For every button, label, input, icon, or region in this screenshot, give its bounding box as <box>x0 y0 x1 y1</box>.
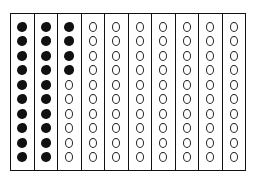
empty-circle-icon <box>89 152 97 162</box>
empty-circle-icon <box>112 123 120 133</box>
empty-circle-icon <box>183 36 191 46</box>
filled-dot-icon <box>17 152 27 162</box>
empty-circle-icon <box>136 65 144 75</box>
empty-circle-icon <box>159 109 167 119</box>
empty-circle-icon <box>89 22 97 32</box>
empty-circle-icon <box>136 51 144 61</box>
empty-circle-icon <box>112 152 120 162</box>
filled-dot-icon <box>41 109 51 119</box>
empty-circle-icon <box>136 80 144 90</box>
filled-dot-icon <box>64 22 74 32</box>
grid-column-1 <box>11 14 35 170</box>
empty-circle-icon <box>112 65 120 75</box>
grid-column-10 <box>223 14 246 170</box>
grid-column-6 <box>129 14 153 170</box>
grid-column-2 <box>35 14 59 170</box>
empty-circle-icon <box>230 94 238 104</box>
empty-circle-icon <box>183 22 191 32</box>
empty-circle-icon <box>136 36 144 46</box>
grid-column-4 <box>82 14 106 170</box>
empty-circle-icon <box>159 65 167 75</box>
filled-dot-icon <box>17 109 27 119</box>
filled-dot-icon <box>17 80 27 90</box>
empty-circle-icon <box>183 51 191 61</box>
empty-circle-icon <box>136 152 144 162</box>
filled-dot-icon <box>41 94 51 104</box>
filled-dot-icon <box>17 51 27 61</box>
empty-circle-icon <box>206 65 214 75</box>
empty-circle-icon <box>112 94 120 104</box>
empty-circle-icon <box>230 36 238 46</box>
empty-circle-icon <box>159 80 167 90</box>
grid-column-3 <box>58 14 82 170</box>
filled-dot-icon <box>64 51 74 61</box>
empty-circle-icon <box>89 109 97 119</box>
empty-circle-icon <box>89 51 97 61</box>
filled-dot-icon <box>41 51 51 61</box>
empty-circle-icon <box>136 94 144 104</box>
empty-circle-icon <box>230 152 238 162</box>
empty-circle-icon <box>230 22 238 32</box>
filled-dot-icon <box>64 65 74 75</box>
grid-column-7 <box>152 14 176 170</box>
empty-circle-icon <box>206 36 214 46</box>
empty-circle-icon <box>89 94 97 104</box>
empty-circle-icon <box>206 152 214 162</box>
filled-dot-icon <box>41 152 51 162</box>
empty-circle-icon <box>89 123 97 133</box>
empty-circle-icon <box>89 80 97 90</box>
empty-circle-icon <box>206 22 214 32</box>
empty-circle-icon <box>230 138 238 148</box>
empty-circle-icon <box>183 123 191 133</box>
filled-dot-icon <box>17 123 27 133</box>
empty-circle-icon <box>65 109 73 119</box>
empty-circle-icon <box>230 80 238 90</box>
filled-dot-icon <box>41 36 51 46</box>
empty-circle-icon <box>65 80 73 90</box>
filled-dot-icon <box>17 138 27 148</box>
filled-dot-icon <box>17 65 27 75</box>
empty-circle-icon <box>112 109 120 119</box>
empty-circle-icon <box>230 109 238 119</box>
empty-circle-icon <box>136 109 144 119</box>
empty-circle-icon <box>159 51 167 61</box>
empty-circle-icon <box>65 123 73 133</box>
empty-circle-icon <box>112 22 120 32</box>
empty-circle-icon <box>112 80 120 90</box>
empty-circle-icon <box>206 123 214 133</box>
empty-circle-icon <box>159 123 167 133</box>
empty-circle-icon <box>65 152 73 162</box>
empty-circle-icon <box>89 138 97 148</box>
empty-circle-icon <box>230 51 238 61</box>
empty-circle-icon <box>230 65 238 75</box>
filled-dot-icon <box>64 36 74 46</box>
grid-column-8 <box>176 14 200 170</box>
empty-circle-icon <box>230 123 238 133</box>
empty-circle-icon <box>183 152 191 162</box>
grid-column-5 <box>105 14 129 170</box>
empty-circle-icon <box>112 36 120 46</box>
empty-circle-icon <box>65 138 73 148</box>
empty-circle-icon <box>159 152 167 162</box>
filled-dot-icon <box>41 138 51 148</box>
hundreds-grid <box>10 13 246 171</box>
empty-circle-icon <box>206 109 214 119</box>
empty-circle-icon <box>206 138 214 148</box>
empty-circle-icon <box>89 65 97 75</box>
empty-circle-icon <box>183 138 191 148</box>
filled-dot-icon <box>41 65 51 75</box>
filled-dot-icon <box>41 80 51 90</box>
empty-circle-icon <box>159 36 167 46</box>
empty-circle-icon <box>136 138 144 148</box>
empty-circle-icon <box>183 109 191 119</box>
empty-circle-icon <box>112 138 120 148</box>
filled-dot-icon <box>17 36 27 46</box>
filled-dot-icon <box>41 22 51 32</box>
filled-dot-icon <box>17 22 27 32</box>
filled-dot-icon <box>41 123 51 133</box>
empty-circle-icon <box>206 51 214 61</box>
empty-circle-icon <box>183 65 191 75</box>
empty-circle-icon <box>159 22 167 32</box>
empty-circle-icon <box>136 123 144 133</box>
empty-circle-icon <box>183 94 191 104</box>
